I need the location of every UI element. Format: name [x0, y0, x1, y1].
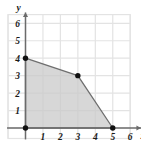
x-tick-label: 3: [74, 132, 80, 142]
y-tick-label: 5: [15, 36, 20, 46]
y-tick-label: 1: [15, 106, 20, 116]
x-tick-label: 5: [110, 132, 115, 142]
x-tick-label: 6: [128, 132, 133, 142]
y-tick-label: 4: [14, 54, 20, 64]
x-tick-label: 2: [57, 132, 63, 142]
x-axis-label: x: [139, 131, 141, 141]
y-tick-label: 2: [14, 89, 20, 99]
vertex-dot: [23, 56, 28, 61]
vertex-dot: [23, 125, 28, 130]
vertex-dot: [75, 73, 80, 78]
coordinate-plane-figure: 123456 123456 x y: [0, 0, 141, 149]
graph-canvas: 123456 123456 x y: [0, 0, 141, 149]
y-axis-label: y: [15, 3, 21, 13]
x-tick-label: 1: [41, 132, 46, 142]
y-tick-label: 6: [15, 19, 20, 29]
vertex-dot: [110, 125, 115, 130]
y-tick-label: 3: [14, 71, 20, 81]
x-tick-label: 4: [92, 132, 98, 142]
